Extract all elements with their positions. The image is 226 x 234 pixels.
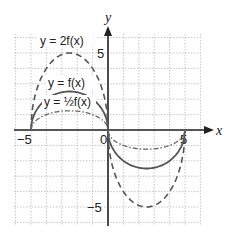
tick-y-neg5: −5 — [87, 200, 102, 215]
label-half-f: y = ½f(x) — [44, 95, 91, 109]
label-2f: y = 2f(x) — [40, 34, 84, 48]
x-axis-label: x — [215, 123, 223, 138]
tick-x-0: 0 — [100, 132, 107, 147]
label-f: y = f(x) — [48, 76, 85, 90]
y-axis-label: y — [103, 10, 112, 25]
tick-y-5: 5 — [97, 46, 104, 61]
x-axis-arrow-icon — [204, 126, 214, 134]
function-graph: x y −5 0 5 5 −5 y = 2f(x) y = f(x) y = ½… — [0, 0, 226, 234]
y-axis-arrow-icon — [104, 26, 112, 36]
tick-x-neg5: −5 — [17, 132, 32, 147]
